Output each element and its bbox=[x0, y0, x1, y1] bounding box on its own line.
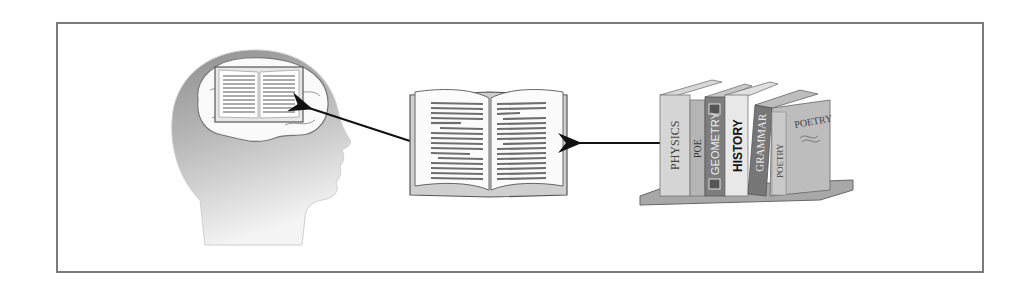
svg-text:POETRY: POETRY bbox=[775, 143, 785, 178]
svg-text:GEOMETRY: GEOMETRY bbox=[709, 112, 721, 175]
spine-physics: PHYSICS bbox=[668, 121, 682, 170]
svg-text:POE: POE bbox=[692, 139, 703, 158]
svg-text:HISTORY: HISTORY bbox=[731, 119, 745, 172]
diagram-canvas: PHYSICS POE GEOMETRY HISTORY GRAMMAR POE… bbox=[0, 0, 1029, 285]
head-icon bbox=[172, 50, 351, 245]
open-book-icon bbox=[410, 90, 567, 197]
brain-book-icon bbox=[215, 67, 303, 122]
bookshelf-icon: PHYSICS POE GEOMETRY HISTORY GRAMMAR POE… bbox=[640, 80, 853, 205]
